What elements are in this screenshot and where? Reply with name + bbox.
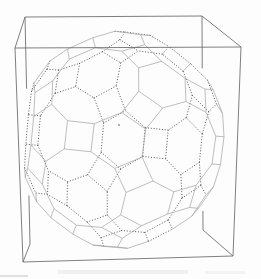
- polyhedron-figure-canvas: [0, 0, 261, 279]
- caption-artifact: [0, 275, 28, 277]
- caption-artifact: [58, 270, 188, 274]
- background: [0, 0, 261, 279]
- figure-page: [0, 0, 261, 279]
- caption-artifact: [205, 271, 245, 274]
- center-point-marker: [118, 124, 120, 126]
